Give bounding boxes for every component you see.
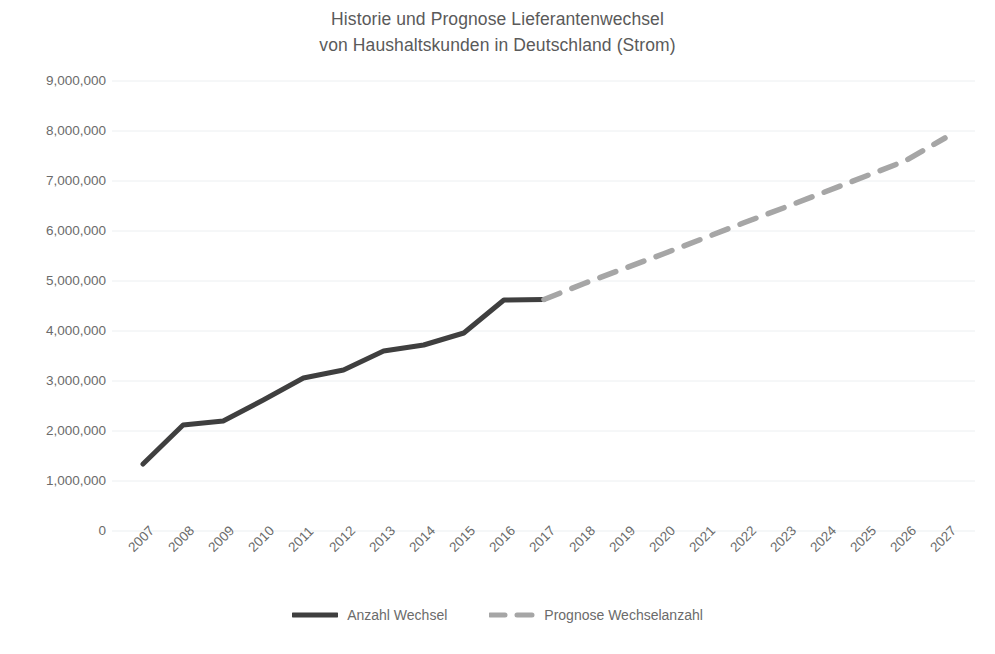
x-tick-label: 2007 — [126, 524, 157, 555]
x-tick-label: 2014 — [407, 524, 438, 555]
x-tick-label: 2022 — [728, 524, 759, 555]
x-tick-label: 2009 — [206, 524, 237, 555]
x-tick-label: 2008 — [166, 524, 197, 555]
x-axis: 2007200820092010201120122013201420152016… — [0, 0, 995, 654]
legend-item[interactable]: Anzahl Wechsel — [292, 607, 447, 623]
legend-dashed-line-icon — [489, 608, 535, 622]
x-tick-label: 2019 — [607, 524, 638, 555]
x-tick-label: 2025 — [848, 524, 879, 555]
x-tick-label: 2020 — [647, 524, 678, 555]
x-tick-label: 2016 — [487, 524, 518, 555]
legend-item[interactable]: Prognose Wechselanzahl — [489, 607, 703, 623]
chart-legend: Anzahl WechselPrognose Wechselanzahl — [0, 607, 995, 623]
x-tick-label: 2017 — [527, 524, 558, 555]
x-tick-label: 2027 — [928, 524, 959, 555]
x-tick-label: 2023 — [768, 524, 799, 555]
x-tick-label: 2012 — [327, 524, 358, 555]
chart-container: Historie und Prognose Lieferantenwechsel… — [0, 0, 995, 654]
legend-solid-line-icon — [292, 608, 338, 622]
legend-label: Anzahl Wechsel — [347, 607, 447, 623]
x-tick-label: 2013 — [367, 524, 398, 555]
x-tick-label: 2021 — [687, 524, 718, 555]
x-tick-label: 2024 — [808, 524, 839, 555]
x-tick-label: 2026 — [888, 524, 919, 555]
legend-label: Prognose Wechselanzahl — [544, 607, 703, 623]
x-tick-label: 2011 — [286, 524, 316, 554]
x-tick-label: 2018 — [567, 524, 598, 555]
x-tick-label: 2015 — [447, 524, 478, 555]
x-tick-label: 2010 — [246, 524, 277, 555]
